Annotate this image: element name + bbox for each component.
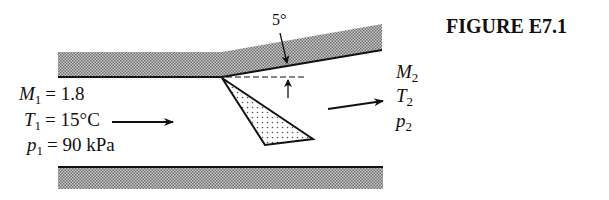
upstream-pressure: p1= 90 kPa (25, 134, 115, 158)
oblique-shock-diagram: 5° M1= 1.8 T1= 15°C p1= 90 kPa M2 T2 p2 … (0, 0, 609, 200)
figure-title: FIGURE E7.1 (446, 15, 567, 37)
downstream-pressure: p2 (394, 110, 412, 134)
oblique-shock-wave (222, 78, 313, 145)
upper-wall-hatch (58, 24, 382, 77)
upper-wall (58, 24, 382, 77)
downstream-mach: M2 (395, 61, 418, 85)
outflow-arrow-icon (328, 101, 383, 109)
upstream-mach: M1= 1.8 (18, 83, 85, 107)
lower-wall (58, 167, 383, 189)
downstream-temperature: T2 (396, 85, 413, 109)
upstream-conditions: M1= 1.8 T1= 15°C p1= 90 kPa (18, 83, 115, 158)
upstream-temperature: T1= 15°C (24, 109, 100, 133)
angle-label: 5° (272, 11, 286, 28)
downstream-conditions: M2 T2 p2 (394, 61, 418, 134)
lower-wall-hatch (58, 167, 383, 189)
